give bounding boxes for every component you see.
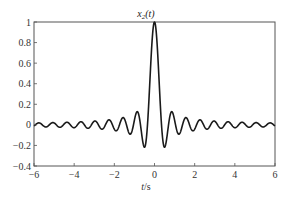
y-tick-label: 0 — [26, 119, 31, 130]
y-tick-label: 0.4 — [19, 78, 32, 89]
plot-frame — [34, 22, 275, 166]
chart: −0.4−0.200.20.40.60.81 −6−4−20246 x2(t) … — [0, 0, 289, 201]
x-tick-label: 0 — [152, 169, 157, 180]
x-tick-label: −6 — [29, 169, 40, 180]
y-axis-ticks: −0.4−0.200.20.40.60.81 — [13, 17, 37, 172]
x-tick-label: −2 — [109, 169, 120, 180]
y-tick-label: 0.2 — [19, 99, 32, 110]
x-axis-label: t/s — [141, 181, 151, 192]
signal-curve — [34, 22, 275, 147]
x-tick-label: 4 — [232, 169, 237, 180]
y-tick-label: 0.6 — [19, 58, 32, 69]
y-tick-label: 1 — [26, 17, 31, 28]
x-tick-label: −4 — [69, 169, 80, 180]
x-tick-label: 6 — [273, 169, 278, 180]
y-tick-label: −0.2 — [13, 140, 31, 151]
x-tick-label: 2 — [192, 169, 197, 180]
y-tick-label: 0.8 — [19, 37, 32, 48]
chart-title: x2(t) — [136, 8, 155, 21]
